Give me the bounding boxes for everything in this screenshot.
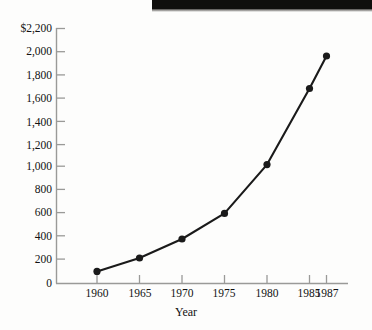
x-axis-ticks bbox=[97, 275, 327, 283]
data-point bbox=[136, 254, 143, 261]
data-line-series-1 bbox=[97, 56, 327, 271]
chart-figure: $2,200 2,000 1,800 1,600 1,400 1,200 1,0… bbox=[0, 0, 372, 330]
data-point-markers bbox=[93, 52, 330, 275]
data-point bbox=[323, 52, 330, 59]
plot-area bbox=[0, 0, 372, 330]
data-point bbox=[93, 268, 100, 275]
data-point bbox=[178, 235, 185, 242]
y-axis-ticks bbox=[56, 29, 65, 260]
data-point bbox=[221, 210, 228, 217]
line-chart: $2,200 2,000 1,800 1,600 1,400 1,200 1,0… bbox=[0, 0, 372, 330]
data-point bbox=[306, 85, 313, 92]
data-point bbox=[263, 161, 270, 168]
